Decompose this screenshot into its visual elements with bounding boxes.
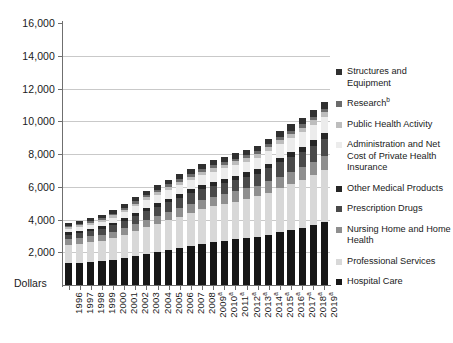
x-tick-mark — [235, 286, 236, 290]
x-tick-label: 2016a — [295, 292, 306, 318]
y-tick-label: 16,000 — [22, 17, 55, 29]
y-tick-label: 6,000 — [28, 181, 55, 193]
x-tick-mark — [302, 286, 303, 290]
x-tick-label: 2013a — [262, 292, 273, 318]
bar-segment — [232, 180, 239, 191]
bar-column — [232, 153, 239, 285]
bar-column — [221, 157, 228, 285]
legend-item[interactable]: Professional Services — [336, 256, 451, 268]
bar-segment — [176, 208, 183, 217]
bar-segment — [221, 241, 228, 285]
legend-swatch-icon — [336, 186, 342, 192]
bar-segment — [321, 102, 328, 109]
legend-label: Hospital Care — [347, 276, 403, 288]
bar-segment — [198, 175, 205, 185]
bar-segment — [187, 213, 194, 246]
bar-segment — [221, 194, 228, 204]
bar-segment — [299, 180, 306, 228]
bar-segment — [65, 263, 72, 285]
x-tick-mark — [91, 286, 92, 290]
bar-segment — [276, 232, 283, 285]
chart-legend: Structures and EquipmentResearchbPublic … — [336, 66, 451, 297]
bar-segment — [310, 162, 317, 175]
x-tick-mark — [69, 286, 70, 290]
x-tick-mark — [269, 286, 270, 290]
x-tick-label: 1997 — [84, 292, 95, 314]
bar-segment — [121, 258, 128, 285]
bar-segment — [221, 168, 228, 178]
y-axis-title: Dollars — [14, 277, 47, 289]
legend-item[interactable]: Prescription Drugs — [336, 203, 451, 215]
y-tick-label: 12,000 — [22, 83, 55, 95]
legend-item[interactable]: Public Health Activity — [336, 119, 451, 131]
bar-segment — [187, 180, 194, 189]
x-tick-mark — [180, 286, 181, 290]
y-tick-label: 4,000 — [28, 214, 55, 226]
bar-segment — [254, 186, 261, 197]
legend-label: Researchb — [347, 98, 390, 110]
bar-column — [299, 118, 306, 285]
y-tick-label: 10,000 — [22, 115, 55, 127]
y-tick-label: 2,000 — [28, 246, 55, 258]
x-tick-label: 2004 — [162, 292, 173, 314]
legend-label: Other Medical Products — [347, 183, 443, 195]
bar-segment — [310, 110, 317, 117]
bar-segment — [254, 174, 261, 186]
bar-segment — [265, 235, 272, 285]
bar-segment — [132, 224, 139, 231]
bar-column — [121, 204, 128, 285]
bar-segment — [254, 237, 261, 285]
legend-item[interactable]: Nursing Home and Home Health — [336, 224, 451, 247]
x-tick-mark — [135, 286, 136, 290]
x-tick-mark — [191, 286, 192, 290]
x-tick-label: 2011a — [239, 292, 250, 317]
bar-segment — [276, 162, 283, 176]
bar-segment — [76, 263, 83, 285]
bar-segment — [276, 188, 283, 232]
bar-segment — [132, 216, 139, 224]
legend-item[interactable]: Administration and Net Cost of Private H… — [336, 139, 451, 174]
legend-item[interactable]: Researchb — [336, 98, 451, 110]
x-tick-mark — [247, 286, 248, 290]
x-tick-mark — [146, 286, 147, 290]
legend-label: Public Health Activity — [347, 119, 432, 131]
legend-label: Administration and Net Cost of Private H… — [347, 139, 440, 174]
bar-column — [321, 102, 328, 285]
bar-segment — [176, 248, 183, 285]
x-tick-label: 1999 — [106, 292, 117, 314]
bar-segment — [310, 146, 317, 162]
legend-swatch-icon — [336, 227, 342, 233]
legend-item[interactable]: Hospital Care — [336, 276, 451, 288]
x-tick-mark — [124, 286, 125, 290]
bar-segment — [109, 260, 116, 285]
bar-segment — [98, 261, 105, 285]
bar-column — [210, 160, 217, 285]
bar-column — [276, 131, 283, 285]
x-tick-mark — [324, 286, 325, 290]
bar-segment — [165, 202, 172, 212]
bar-segment — [176, 217, 183, 249]
y-tick-label: 8,000 — [28, 148, 55, 160]
legend-swatch-icon — [336, 142, 342, 148]
bar-segment — [210, 206, 217, 242]
legend-swatch-icon — [336, 122, 342, 128]
bar-segment — [232, 191, 239, 201]
bar-segment — [310, 225, 317, 285]
bar-segment — [276, 177, 283, 189]
x-tick-mark — [202, 286, 203, 290]
bar-segment — [232, 202, 239, 240]
bar-segment — [132, 231, 139, 256]
bar-segment — [221, 183, 228, 194]
bar-segment — [232, 165, 239, 175]
bar-column — [265, 139, 272, 285]
bar-column — [165, 180, 172, 285]
legend-swatch-icon — [336, 279, 342, 285]
bar-segment — [321, 117, 328, 134]
x-tick-label: 2005 — [173, 292, 184, 314]
bar-segment — [187, 246, 194, 285]
bar-segment — [143, 254, 150, 285]
legend-item[interactable]: Structures and Equipment — [336, 66, 451, 89]
legend-item[interactable]: Other Medical Products — [336, 183, 451, 195]
bar-column — [198, 164, 205, 285]
bar-segment — [198, 200, 205, 209]
